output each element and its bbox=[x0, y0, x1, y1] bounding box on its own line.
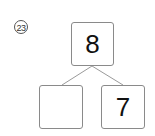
left-connector bbox=[62, 66, 92, 85]
right-connector bbox=[92, 66, 123, 85]
whole-number-box: 8 bbox=[71, 22, 114, 66]
missing-part-box[interactable] bbox=[39, 85, 83, 129]
known-part-box: 7 bbox=[101, 85, 145, 129]
